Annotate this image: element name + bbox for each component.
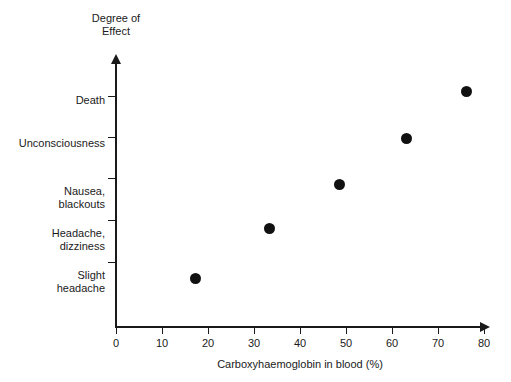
x-tick-70 <box>438 327 439 334</box>
y-tick-1 <box>108 262 116 263</box>
x-axis-arrow-icon <box>480 322 490 332</box>
x-axis-label-0: 0 <box>96 337 136 350</box>
y-axis-arrow-icon <box>111 54 121 64</box>
x-tick-40 <box>300 327 301 334</box>
data-point <box>190 273 201 284</box>
x-tick-10 <box>162 327 163 334</box>
x-axis-label-30: 30 <box>234 337 274 350</box>
x-axis-label-80: 80 <box>464 337 504 350</box>
y-tick-4 <box>108 137 116 138</box>
x-axis-label-60: 60 <box>372 337 412 350</box>
x-tick-60 <box>392 327 393 334</box>
x-tick-30 <box>254 327 255 334</box>
x-tick-80 <box>484 327 485 334</box>
y-tick-2 <box>108 220 116 221</box>
data-point <box>334 179 345 190</box>
chart-container: Degree of Effect Slight headache Headach… <box>0 0 511 382</box>
y-tick-5 <box>108 96 116 97</box>
y-axis-line <box>115 62 117 328</box>
x-axis-label-70: 70 <box>418 337 458 350</box>
y-axis-label-unconsciousness: Unconsciousness <box>19 137 105 150</box>
data-point <box>401 133 412 144</box>
x-tick-20 <box>208 327 209 334</box>
x-axis-label-20: 20 <box>188 337 228 350</box>
x-axis-label-50: 50 <box>326 337 366 350</box>
data-point <box>264 223 275 234</box>
y-axis-title: Degree of Effect <box>58 12 174 38</box>
y-axis-label-death: Death <box>76 94 105 107</box>
x-axis-title: Carboxyhaemoglobin in blood (%) <box>115 358 485 371</box>
x-tick-50 <box>346 327 347 334</box>
x-axis-label-40: 40 <box>280 337 320 350</box>
y-axis-label-nausea-blackouts: Nausea, blackouts <box>59 185 105 211</box>
data-point <box>461 86 472 97</box>
x-tick-0 <box>116 327 117 334</box>
y-axis-label-headache-dizziness: Headache, dizziness <box>52 227 105 253</box>
y-axis-label-slight-headache: Slight headache <box>57 269 105 295</box>
x-axis-label-10: 10 <box>142 337 182 350</box>
y-tick-3 <box>108 178 116 179</box>
